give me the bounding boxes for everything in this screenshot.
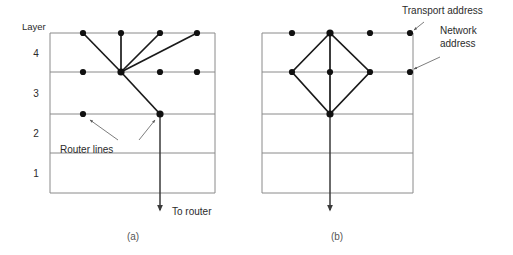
node-transport-a1 (80, 30, 86, 36)
node-transport-a2 (118, 30, 124, 36)
layer-label-1: 1 (33, 168, 39, 179)
network-address-label-line2: address (440, 38, 476, 49)
layer-label-2: 2 (33, 128, 39, 139)
network-layer-multiplexing-diagram: Layer 4 3 2 1 (0, 0, 513, 255)
transport-address-label: Transport address (402, 5, 483, 16)
transport-address-leader (414, 22, 424, 30)
to-router-label: To router (172, 206, 212, 217)
network-address-label-line1: Network (440, 25, 478, 36)
node-network-b3 (367, 69, 373, 75)
router-line-1 (83, 33, 121, 72)
node-network-a1 (80, 111, 86, 117)
layer-axis-label: Layer (22, 21, 46, 32)
router-lines-leader-left (90, 120, 118, 140)
layer-label-3: 3 (33, 88, 39, 99)
node-network-b1 (289, 69, 295, 75)
node-transport-address-b (407, 30, 413, 36)
node-layer34-a1 (80, 69, 86, 75)
node-transport-b1 (289, 30, 295, 36)
router-line-down (121, 72, 160, 114)
node-network-a2 (156, 110, 163, 117)
panel-a-router-lines (83, 33, 197, 114)
node-network-address-b (407, 69, 413, 75)
router-lines-label: Router lines (60, 144, 113, 155)
layer-label-4: 4 (33, 48, 39, 59)
node-transport-a3 (157, 30, 163, 36)
node-layer34-a4 (194, 69, 200, 75)
node-transport-apex-b (326, 29, 333, 36)
router-line-4 (121, 33, 197, 72)
figure-root: Layer 4 3 2 1 (0, 0, 513, 255)
node-layer34-a3 (157, 69, 163, 75)
node-network-b2 (327, 69, 333, 75)
panel-a: Layer 4 3 2 1 (22, 21, 215, 242)
router-lines-leader-right (139, 120, 155, 140)
node-diamond-bottom-b (326, 110, 333, 117)
panel-a-caption: (a) (127, 231, 139, 242)
router-line-3 (121, 33, 160, 72)
network-address-leader (414, 57, 440, 69)
node-hub-a (117, 68, 124, 75)
node-transport-b3 (367, 30, 373, 36)
panel-b: Transport address Network address (b) (262, 5, 483, 242)
panel-b-caption: (b) (331, 231, 343, 242)
node-transport-a4 (194, 30, 200, 36)
